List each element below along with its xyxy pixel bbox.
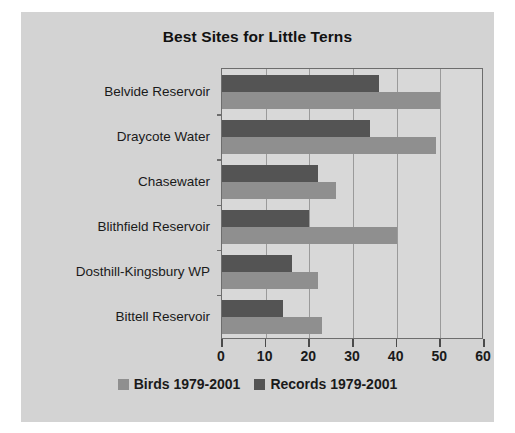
legend-label: Records 1979-2001 <box>270 376 397 392</box>
value-axis: 0102030405060 <box>221 339 483 349</box>
value-tick-label: 40 <box>388 348 404 364</box>
legend-entry: Birds 1979-2001 <box>118 376 241 392</box>
chart-container: Best Sites for Little Terns Belvide Rese… <box>0 0 515 433</box>
chart-title: Best Sites for Little Terns <box>21 28 494 46</box>
bar-birds <box>222 92 440 109</box>
bar-birds <box>222 182 336 199</box>
legend-label: Birds 1979-2001 <box>134 376 241 392</box>
legend-swatch-icon <box>254 379 265 390</box>
chart-legend: Birds 1979-2001Records 1979-2001 <box>21 376 494 392</box>
category-tick <box>217 159 222 161</box>
bar-records <box>222 75 379 92</box>
category-label: Blithfield Reservoir <box>97 219 210 234</box>
value-tick <box>221 339 223 347</box>
bar-group <box>222 295 482 340</box>
value-tick-label: 60 <box>475 348 491 364</box>
category-tick <box>217 250 222 252</box>
bar-records <box>222 255 292 272</box>
bar-group <box>222 205 482 250</box>
category-tick <box>217 114 222 116</box>
category-axis-labels: Belvide ReservoirDraycote WaterChasewate… <box>21 68 216 339</box>
bar-records <box>222 300 283 317</box>
value-tick-label: 20 <box>301 348 317 364</box>
value-tick-label: 30 <box>344 348 360 364</box>
value-tick <box>265 339 267 347</box>
category-tick <box>217 205 222 207</box>
category-label: Bittell Reservoir <box>115 309 210 324</box>
value-tick <box>396 339 398 347</box>
bar-records <box>222 210 309 227</box>
chart-area: Best Sites for Little Terns Belvide Rese… <box>21 12 494 422</box>
value-tick <box>352 339 354 347</box>
bar-group <box>222 114 482 159</box>
value-tick <box>439 339 441 347</box>
bar-group <box>222 159 482 204</box>
bar-records <box>222 120 370 137</box>
category-label: Chasewater <box>138 173 210 188</box>
category-label: Belvide Reservoir <box>104 83 210 98</box>
category-tick <box>217 295 222 297</box>
value-tick-label: 0 <box>217 348 225 364</box>
category-label: Draycote Water <box>117 128 210 143</box>
bar-records <box>222 165 318 182</box>
value-tick <box>483 339 485 347</box>
bar-birds <box>222 227 397 244</box>
legend-swatch-icon <box>118 379 129 390</box>
category-label: Dosthill-Kingsbury WP <box>76 264 210 279</box>
bar-group <box>222 250 482 295</box>
bar-group <box>222 69 482 114</box>
bar-birds <box>222 317 322 334</box>
bar-birds <box>222 137 436 154</box>
plot-area <box>221 68 483 339</box>
value-tick <box>308 339 310 347</box>
bar-birds <box>222 272 318 289</box>
value-tick-label: 10 <box>257 348 273 364</box>
value-tick-label: 50 <box>432 348 448 364</box>
legend-entry: Records 1979-2001 <box>254 376 397 392</box>
